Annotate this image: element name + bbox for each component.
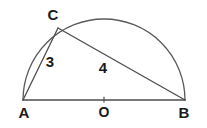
length-label-cb: 4 [99,59,108,76]
vertex-label-a: A [19,104,30,121]
center-label-o: O [99,104,110,120]
vertex-label-c: C [48,6,59,23]
segment-side-cb [58,28,185,100]
vertex-label-b: B [179,104,190,121]
length-label-ac: 3 [46,53,54,70]
geometry-canvas: A B C O 3 4 [0,0,207,128]
geometry-figure: A B C O 3 4 [0,0,207,128]
